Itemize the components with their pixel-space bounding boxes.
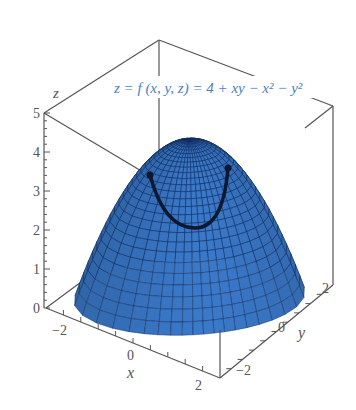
surface-patch <box>203 307 214 321</box>
surface-patch <box>180 192 186 199</box>
surface-patch <box>216 259 226 271</box>
surface-patch <box>136 282 151 296</box>
surface-patch <box>148 230 160 241</box>
surface-patch <box>186 185 191 192</box>
surface-patch <box>159 309 172 322</box>
surface-patch <box>212 306 223 320</box>
z-tick-1: 1 <box>33 262 40 277</box>
surface-patch <box>171 322 183 335</box>
surface-patch <box>151 272 164 284</box>
surface-patch <box>191 191 196 199</box>
z-axis-label: z <box>52 85 59 101</box>
paraboloid-surface <box>75 138 305 335</box>
surface-patch <box>191 206 197 215</box>
surface-plot: 5 4 3 2 1 0 z −2 0 x 2 −2 0 y 2 z = f (x… <box>0 0 356 410</box>
surface-patch <box>196 184 201 191</box>
surface-patch <box>223 317 235 332</box>
z-axis-ticks <box>44 113 50 308</box>
surface-patch <box>165 252 175 263</box>
surface-patch <box>182 322 193 336</box>
surface-patch <box>232 302 245 317</box>
surface-patch <box>200 261 209 273</box>
surface-patch <box>186 178 191 185</box>
surface-patch <box>193 162 197 167</box>
x-axis-label: x <box>126 364 134 381</box>
surface-patch <box>234 315 247 330</box>
surface-patch <box>175 252 184 263</box>
surface-patch <box>202 295 212 308</box>
surface-patch <box>162 285 174 297</box>
surface-patch <box>218 269 229 282</box>
surface-patch <box>219 281 230 294</box>
surface-patch <box>197 198 203 206</box>
surface-patch <box>187 162 190 167</box>
surface-patch <box>164 262 175 273</box>
surface-patch <box>193 308 203 321</box>
surface-patch <box>213 319 225 333</box>
surface-patch <box>184 162 188 167</box>
curve-endpoint <box>225 165 232 172</box>
surface-patch <box>174 274 184 285</box>
surface-patch <box>197 206 204 215</box>
surface-patch <box>169 223 178 232</box>
surface-patch <box>176 233 184 243</box>
surface-patch <box>129 319 146 334</box>
surface-patch <box>230 290 242 304</box>
z-tick-5: 5 <box>33 106 40 121</box>
surface-patch <box>183 285 193 297</box>
surface-patch <box>185 215 192 224</box>
surface-patch <box>191 184 196 191</box>
x-tick-2: 2 <box>195 378 202 393</box>
y-tick-0: 0 <box>278 320 285 335</box>
surface-patch <box>184 242 192 252</box>
surface-patch <box>182 179 187 185</box>
surface-patch <box>211 294 222 308</box>
surface-patch <box>194 172 199 178</box>
surface-patch <box>183 167 187 172</box>
surface-patch <box>153 261 165 273</box>
y-axis-label: y <box>296 324 306 342</box>
surface-patch <box>161 296 173 309</box>
z-tick-2: 2 <box>33 223 40 238</box>
surface-patch <box>193 284 203 297</box>
surface-patch <box>221 292 232 306</box>
surface-patch <box>157 241 168 252</box>
surface-patch <box>187 173 191 179</box>
surface-patch <box>208 260 218 272</box>
surface-patch <box>199 231 207 241</box>
surface-patch <box>179 207 186 215</box>
surface-patch <box>193 321 204 335</box>
z-tick-0: 0 <box>33 301 40 316</box>
surface-patch <box>145 240 158 251</box>
surface-patch <box>184 262 193 273</box>
surface-patch <box>138 271 153 284</box>
surface-patch <box>192 214 199 223</box>
surface-patch <box>227 267 239 280</box>
surface-patch <box>173 199 181 207</box>
surface-patch <box>134 294 150 308</box>
surface-patch <box>176 242 185 252</box>
surface-patch <box>131 306 147 321</box>
surface-patch <box>176 178 182 185</box>
surface-patch <box>173 285 184 297</box>
x-tick-neg2: −2 <box>52 323 67 338</box>
surface-patch <box>179 199 186 207</box>
surface-patch <box>192 232 200 242</box>
chart-title: z = f (x, y, z) = 4 + xy − x² − y² <box>113 80 303 97</box>
surface-patch <box>195 178 200 185</box>
surface-patch <box>150 284 163 297</box>
surface-patch <box>174 191 181 199</box>
surface-patch <box>186 191 192 198</box>
surface-patch <box>174 263 184 274</box>
surface-patch <box>182 173 187 179</box>
surface-patch <box>167 242 177 252</box>
y-tick-2: 2 <box>322 281 329 296</box>
surface-patch <box>144 321 159 335</box>
surface-patch <box>192 251 200 262</box>
z-tick-3: 3 <box>33 184 40 199</box>
surface-patch <box>200 251 209 262</box>
surface-patch <box>198 214 205 223</box>
surface-patch <box>143 250 157 262</box>
y-tick-neg2: −2 <box>236 363 251 378</box>
surface-patch <box>201 272 210 284</box>
